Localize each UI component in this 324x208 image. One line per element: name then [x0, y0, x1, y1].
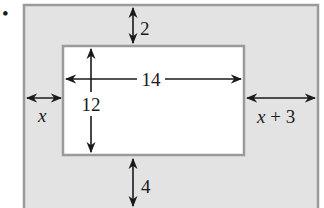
left-margin-label: x — [37, 105, 47, 126]
framed-rectangle-diagram: • 2 4 x x + 3 14 12 — [0, 0, 324, 208]
inner-height-label: 12 — [82, 94, 101, 115]
right-margin-label-rest: + 3 — [265, 106, 295, 127]
bottom-margin-label: 4 — [141, 176, 151, 197]
right-margin-label: x + 3 — [256, 106, 295, 127]
bullet-marker: • — [2, 3, 9, 24]
inner-width-label: 14 — [142, 69, 162, 90]
top-margin-label: 2 — [140, 18, 150, 39]
